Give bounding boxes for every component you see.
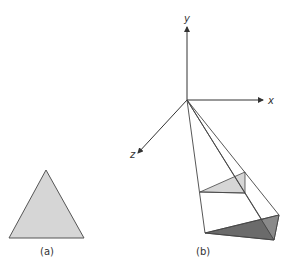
x-axis-label: x [267, 95, 274, 106]
panel-b [138, 27, 279, 240]
panel-a-label: (a) [40, 246, 54, 257]
panel-a [9, 170, 84, 238]
figure-canvas: y x z (a) (b) [0, 0, 292, 269]
projector-4 [187, 100, 262, 220]
triangle-a [9, 170, 84, 238]
panel-b-label: (b) [196, 246, 210, 257]
z-axis-label: z [129, 149, 136, 160]
z-axis [138, 100, 187, 153]
projector-1 [187, 100, 205, 233]
projector-2 [187, 100, 279, 215]
y-axis-label: y [183, 13, 191, 24]
